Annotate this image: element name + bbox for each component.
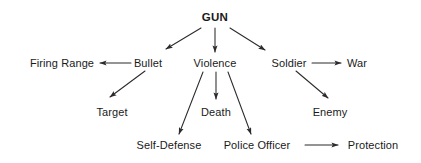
- node-gun[interactable]: GUN: [202, 11, 228, 23]
- edge-arrow-violence-self-defense: [179, 72, 203, 134]
- edge-arrow-gun-bullet: [166, 28, 201, 49]
- node-enemy[interactable]: Enemy: [313, 106, 348, 118]
- node-bullet[interactable]: Bullet: [134, 57, 162, 69]
- node-violence[interactable]: Violence: [194, 57, 237, 69]
- edge-arrow-soldier-enemy: [296, 71, 328, 98]
- edge-arrow-violence-police-officer: [228, 72, 251, 134]
- node-self-defense[interactable]: Self-Defense: [137, 139, 202, 151]
- edge-arrow-bullet-target: [110, 71, 145, 97]
- edge-arrow-gun-soldier: [230, 28, 265, 50]
- node-protection[interactable]: Protection: [348, 139, 399, 151]
- node-soldier[interactable]: Soldier: [272, 57, 307, 69]
- concept-map-diagram: GUNFiring RangeBulletViolenceSoldierWarT…: [0, 0, 421, 163]
- node-target[interactable]: Target: [96, 106, 127, 118]
- node-death[interactable]: Death: [201, 106, 231, 118]
- node-war[interactable]: War: [347, 57, 367, 69]
- node-firing-range[interactable]: Firing Range: [30, 57, 94, 69]
- edges-group: [100, 28, 341, 145]
- node-police-officer[interactable]: Police Officer: [224, 139, 291, 151]
